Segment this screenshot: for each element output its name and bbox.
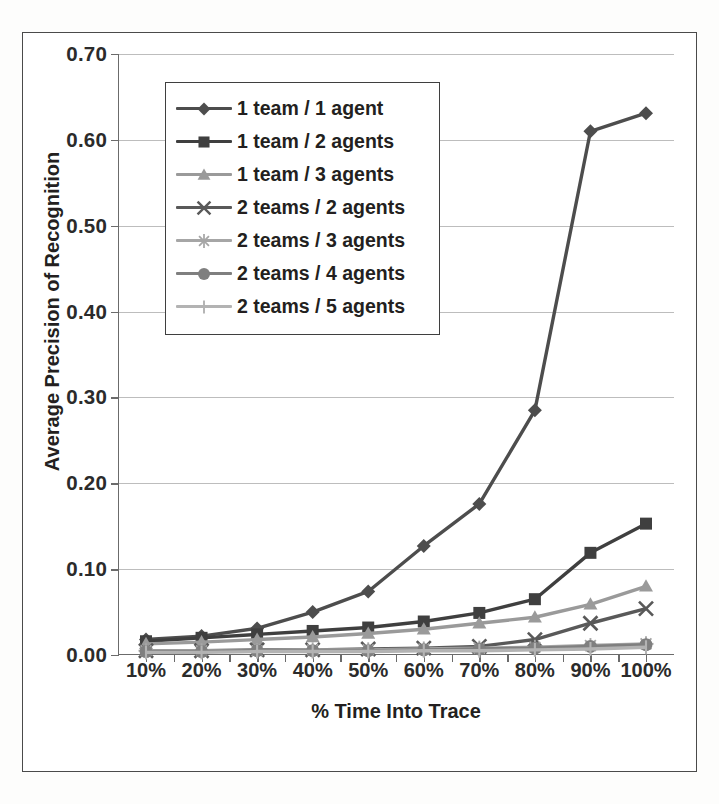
marker-square (640, 518, 652, 530)
x-axis-title: % Time Into Trace (118, 700, 674, 723)
x-tick-label: 40% (293, 659, 333, 682)
marker-x (198, 201, 211, 214)
legend-marker-diamond-icon (192, 97, 216, 121)
x-tick-mark-minor (618, 654, 619, 662)
y-tick-label: 0.50 (66, 214, 107, 238)
marker-square (198, 136, 209, 147)
y-axis-title: Average Precision of Recognition (41, 32, 64, 592)
marker-diamond (583, 124, 597, 138)
legend-label: 2 teams / 2 agents (237, 196, 405, 219)
marker-square (584, 547, 596, 559)
x-tick-mark-minor (285, 654, 286, 662)
marker-triangle (639, 579, 653, 591)
legend-label: 1 team / 2 agents (237, 130, 394, 153)
legend-marker-circle-icon (192, 262, 216, 286)
legend-label: 1 team / 3 agents (237, 163, 394, 186)
x-tick-label: 30% (237, 659, 277, 682)
y-tick-label: 0.30 (66, 385, 107, 409)
legend-marker-plus-icon (192, 295, 216, 319)
legend-item-4[interactable]: 2 teams / 3 agents (176, 224, 429, 257)
x-tick-mark-minor (563, 654, 564, 662)
y-tick-label: 0.10 (66, 557, 107, 581)
x-tick-label: 60% (404, 659, 444, 682)
legend: 1 team / 1 agent1 team / 2 agents1 team … (165, 82, 440, 335)
legend-swatch-square-icon (176, 131, 232, 153)
legend-marker-star-icon (192, 229, 216, 253)
y-tick-label: 0.20 (66, 471, 107, 495)
legend-label: 2 teams / 3 agents (237, 229, 405, 252)
series-line (146, 609, 646, 651)
legend-label: 1 team / 1 agent (237, 97, 383, 120)
series-line (146, 524, 646, 642)
legend-marker-triangle-icon (192, 163, 216, 187)
x-tick-mark-minor (229, 654, 230, 662)
marker-circle (198, 268, 210, 280)
y-tick-label: 0.00 (66, 643, 107, 667)
legend-item-2[interactable]: 1 team / 3 agents (176, 158, 429, 191)
legend-marker-square-icon (192, 130, 216, 154)
x-tick-label: 20% (182, 659, 222, 682)
legend-label: 2 teams / 4 agents (237, 262, 405, 285)
x-tick-mark-minor (174, 654, 175, 662)
legend-swatch-triangle-icon (176, 164, 232, 186)
y-tick-mark (111, 655, 119, 656)
x-tick-mark-minor (452, 654, 453, 662)
x-tick-mark-minor (507, 654, 508, 662)
legend-label: 2 teams / 5 agents (237, 295, 405, 318)
x-tick-label: 90% (570, 659, 610, 682)
x-tick-mark-minor (340, 654, 341, 662)
x-tick-mark-minor (396, 654, 397, 662)
x-tick-mark (646, 654, 647, 662)
y-tick-label: 0.70 (66, 42, 107, 66)
marker-star (197, 234, 211, 248)
plot-area: 0.000.100.200.300.400.500.600.70 10%20%3… (118, 54, 674, 655)
legend-item-1[interactable]: 1 team / 2 agents (176, 125, 429, 158)
y-tick-label: 0.60 (66, 128, 107, 152)
marker-square (529, 593, 541, 605)
legend-marker-x-icon (192, 196, 216, 220)
legend-item-0[interactable]: 1 team / 1 agent (176, 92, 429, 125)
marker-diamond (198, 102, 211, 115)
legend-item-3[interactable]: 2 teams / 2 agents (176, 191, 429, 224)
x-tick-label: 70% (459, 659, 499, 682)
marker-diamond (306, 605, 320, 619)
legend-swatch-star-icon (176, 230, 232, 252)
legend-item-5[interactable]: 2 teams / 4 agents (176, 257, 429, 290)
chart-page: Average Precision of Recognition % Time … (0, 0, 719, 804)
marker-diamond (639, 106, 653, 120)
x-tick-label: 80% (515, 659, 555, 682)
y-tick-label: 0.40 (66, 300, 107, 324)
marker-triangle (198, 168, 211, 179)
marker-diamond (528, 403, 542, 417)
x-tick-label: 50% (348, 659, 388, 682)
legend-swatch-circle-icon (176, 263, 232, 285)
legend-item-6[interactable]: 2 teams / 5 agents (176, 290, 429, 323)
x-tick-label: 10% (126, 659, 166, 682)
legend-swatch-x-icon (176, 197, 232, 219)
x-tick-label: 100% (620, 659, 671, 682)
legend-swatch-plus-icon (176, 296, 232, 318)
legend-swatch-diamond-icon (176, 98, 232, 120)
